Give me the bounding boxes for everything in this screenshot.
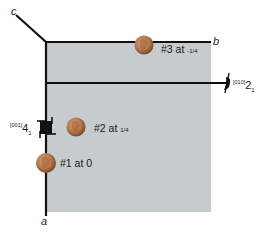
coin-3-icon	[135, 36, 154, 55]
coin-1-label-prefix: #1 at	[60, 157, 83, 169]
screw-axis-4-direction: [001]	[10, 122, 22, 128]
coin-1-label: #1 at 0	[60, 158, 92, 169]
coin-3-label: #3 at -1/4	[161, 44, 198, 55]
coin-2-label-prefix: #2 at	[94, 122, 117, 134]
coin-3-height: -1/4	[187, 48, 197, 54]
coin-3-label-prefix: #3 at	[161, 43, 184, 55]
a-axis-label: a	[41, 216, 47, 227]
unit-cell-diagram: c b a [010]21 [001]41 #1 at 0 #2 at 1/4 …	[0, 0, 265, 232]
screw-axis-2-subscript: 1	[251, 87, 254, 93]
screw-axis-4-subscript: 1	[28, 130, 31, 136]
screw-axis-2-label: [010]21	[233, 80, 255, 93]
coin-2-height: 1/4	[120, 127, 128, 133]
c-axis-label: c	[11, 6, 17, 17]
c-axis-line	[16, 15, 46, 42]
coin-1-icon	[36, 153, 56, 173]
coin-2-icon	[67, 118, 86, 137]
screw-axis-4-label: [001]41	[10, 123, 32, 136]
screw-axis-2-direction: [010]	[233, 79, 245, 85]
b-axis-label: b	[213, 36, 219, 47]
coin-2-label: #2 at 1/4	[94, 123, 129, 134]
diagram-graphics	[0, 0, 265, 232]
coin-1-height: 0	[86, 157, 92, 169]
